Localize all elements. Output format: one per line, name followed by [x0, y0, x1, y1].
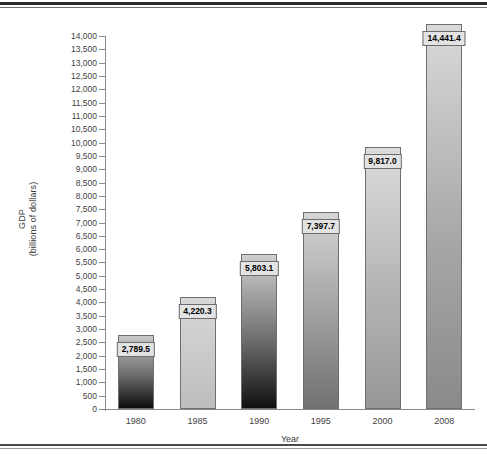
y-axis-title: GDP (billions of dollars) — [17, 159, 39, 279]
y-tick-label: 8,500 — [43, 178, 97, 188]
bar-value-label: 4,220.3 — [178, 304, 216, 319]
y-tick-label: 5,000 — [43, 271, 97, 281]
bar[interactable]: 2,789.5 — [118, 335, 154, 409]
x-axis-line — [105, 409, 475, 410]
y-tick-label: 1,500 — [43, 364, 97, 374]
y-tick-label: 0 — [43, 404, 97, 414]
x-axis-title: Year — [105, 434, 475, 444]
y-tick-label: 3,000 — [43, 324, 97, 334]
y-tick-label: 11,500 — [43, 98, 97, 108]
y-tick-label: 3,500 — [43, 311, 97, 321]
y-tick-label: 9,500 — [43, 151, 97, 161]
x-tick-label: 1990 — [229, 416, 289, 426]
gdp-bar-chart-figure: GDP (billions of dollars) 14,00013,50013… — [0, 10, 487, 440]
y-tick-label: 6,000 — [43, 244, 97, 254]
x-tick-label: 1985 — [168, 416, 228, 426]
y-tick-label: 13,000 — [43, 58, 97, 68]
y-tick-mark — [99, 409, 105, 410]
bar[interactable]: 7,397.7 — [303, 212, 339, 409]
y-tick-label: 10,000 — [43, 138, 97, 148]
y-tick-label: 12,500 — [43, 71, 97, 81]
y-tick-label: 14,000 — [43, 31, 97, 41]
bar-value-label: 5,803.1 — [240, 261, 278, 276]
y-tick-label: 6,500 — [43, 231, 97, 241]
bar-value-label: 14,441.4 — [423, 31, 466, 46]
bar[interactable]: 4,220.3 — [180, 297, 216, 409]
y-tick-label: 2,500 — [43, 337, 97, 347]
top-rule-thick — [0, 2, 487, 5]
y-tick-label: 11,000 — [43, 111, 97, 121]
x-tick-label: 1995 — [291, 416, 351, 426]
bar-value-label: 7,397.7 — [302, 219, 340, 234]
y-tick-label: 4,000 — [43, 297, 97, 307]
x-tick-label: 2000 — [353, 416, 413, 426]
bar-value-label: 9,817.0 — [363, 154, 401, 169]
y-tick-label: 2,000 — [43, 351, 97, 361]
y-tick-label: 500 — [43, 391, 97, 401]
y-tick-label: 7,000 — [43, 218, 97, 228]
bar-series: 2,789.54,220.35,803.17,397.79,817.014,44… — [105, 36, 475, 409]
top-rule-thin — [0, 7, 487, 8]
x-tick-label: 1980 — [106, 416, 166, 426]
y-tick-label: 4,500 — [43, 284, 97, 294]
y-tick-label: 1,000 — [43, 377, 97, 387]
bar[interactable]: 9,817.0 — [365, 147, 401, 409]
y-tick-label: 7,500 — [43, 204, 97, 214]
bar-value-label: 2,789.5 — [117, 342, 155, 357]
y-axis-title-line2: (billions of dollars) — [28, 159, 39, 279]
y-tick-label: 9,000 — [43, 164, 97, 174]
y-axis-title-line1: GDP — [17, 159, 28, 279]
y-tick-label: 5,500 — [43, 257, 97, 267]
bottom-rule-thin — [0, 448, 487, 449]
bar[interactable]: 14,441.4 — [426, 24, 462, 409]
y-tick-label: 10,500 — [43, 124, 97, 134]
y-tick-label: 12,000 — [43, 84, 97, 94]
chart-page: GDP (billions of dollars) 14,00013,50013… — [0, 0, 487, 454]
y-tick-label: 13,500 — [43, 44, 97, 54]
y-tick-label: 8,000 — [43, 191, 97, 201]
bar[interactable]: 5,803.1 — [241, 254, 277, 409]
x-tick-label: 2008 — [414, 416, 474, 426]
bottom-rule-thick — [0, 444, 487, 446]
